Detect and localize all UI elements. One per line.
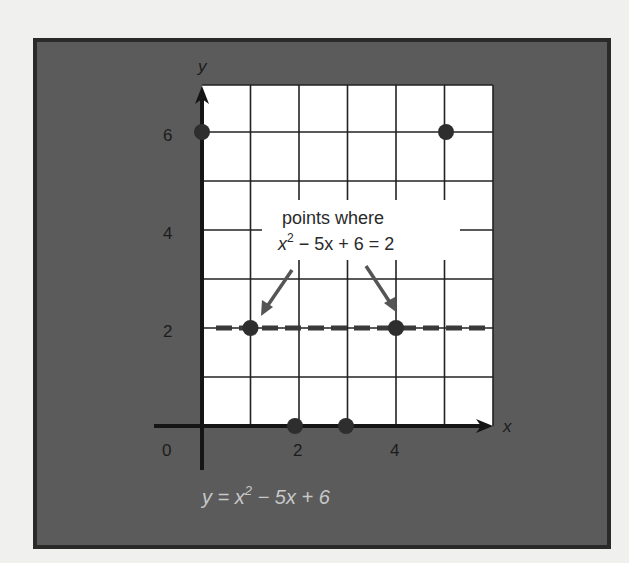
parabola-chart: y x 0 2 4 2 4 6 points where x2 − 5x + 6… (0, 0, 629, 563)
annotation-line-1: points where (282, 208, 384, 228)
origin-label: 0 (162, 441, 171, 460)
point-0-6 (194, 124, 210, 140)
y-tick-2: 2 (163, 322, 172, 341)
x-tick-2: 2 (293, 441, 302, 460)
x-axis-label: x (502, 417, 512, 436)
y-axis-label: y (197, 57, 208, 76)
point-2-0 (287, 418, 303, 434)
point-3-0 (338, 418, 354, 434)
point-4-2 (388, 320, 404, 336)
y-tick-6: 6 (163, 126, 172, 145)
point-1-2 (243, 320, 259, 336)
y-tick-4: 4 (163, 224, 172, 243)
annotation-line-2: x2 − 5x + 6 = 2 (277, 231, 394, 254)
x-tick-4: 4 (390, 441, 399, 460)
equation-label: y = x2 − 5x + 6 (200, 483, 331, 508)
point-5-6 (438, 124, 454, 140)
